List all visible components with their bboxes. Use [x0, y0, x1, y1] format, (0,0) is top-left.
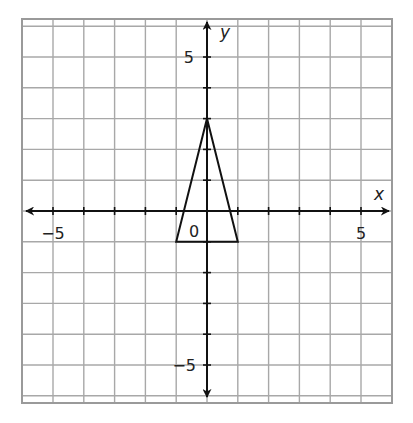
y-axis-label: y	[219, 22, 231, 42]
coordinate-plane: x y 0 −5 5 5 −5	[0, 0, 413, 423]
y-tick-label-5: 5	[184, 48, 194, 67]
x-tick-label-neg5: −5	[41, 224, 65, 243]
axis-labels: x y 0 −5 5 5 −5	[41, 22, 385, 375]
y-tick-label-neg5: −5	[172, 356, 196, 375]
axes	[26, 22, 389, 397]
x-axis-label: x	[373, 184, 385, 204]
origin-label: 0	[189, 222, 199, 241]
x-tick-label-5: 5	[356, 224, 366, 243]
